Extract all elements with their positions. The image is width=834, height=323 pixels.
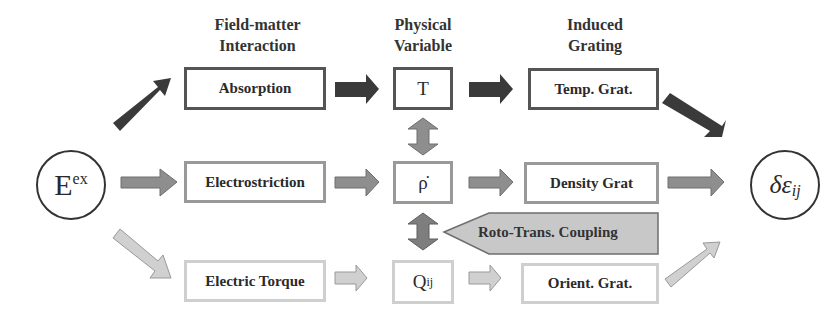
density-rate-label: ρ̇	[418, 172, 427, 194]
arrow-absorption-to-t	[335, 74, 379, 104]
arrow-density-to-target	[668, 169, 724, 196]
density-rate-box: ρ̇	[393, 161, 453, 204]
source-field-node: Eex	[36, 150, 106, 220]
target-symbol: δε	[769, 170, 791, 200]
source-symbol: E	[54, 168, 72, 202]
density-grating-label: Density Grat	[550, 175, 633, 192]
arrow-electrostriction-to-rho	[335, 169, 379, 196]
order-parameter-symbol: Q	[413, 271, 427, 293]
arrow-temp-to-target	[662, 93, 726, 137]
order-parameter-subscript: ij	[427, 275, 434, 290]
absorption-box: Absorption	[184, 67, 326, 110]
electrostriction-box: Electrostriction	[184, 161, 326, 203]
absorption-label: Absorption	[219, 80, 292, 97]
electric-torque-label: Electric Torque	[205, 273, 304, 290]
source-superscript: ex	[73, 170, 88, 188]
electric-torque-box: Electric Torque	[184, 260, 326, 302]
density-grating-box: Density Grat	[524, 162, 659, 204]
arrow-orient-to-target	[665, 242, 720, 287]
arrow-source-to-electrostriction	[121, 169, 177, 196]
target-subscript: ij	[792, 182, 801, 200]
electrostriction-label: Electrostriction	[205, 174, 305, 191]
coupling-label: Roto-Trans. Coupling	[478, 224, 618, 241]
arrow-source-to-absorption	[113, 78, 171, 131]
temp-grating-label: Temp. Grat.	[554, 81, 632, 98]
arrow-t-to-temp	[469, 74, 513, 104]
arrow-rho-to-density	[469, 169, 513, 196]
arrow-source-to-torque	[113, 229, 171, 278]
arrow-q-to-orient	[469, 265, 501, 291]
orient-grating-label: Orient. Grat.	[548, 275, 633, 292]
arrow-torque-to-q	[335, 265, 367, 291]
temperature-label: T	[417, 78, 429, 100]
double-arrow-t-rho	[408, 118, 438, 155]
order-parameter-box: Qij	[392, 260, 454, 304]
target-permittivity-node: δεij	[750, 150, 820, 220]
double-arrow-rho-q	[408, 213, 438, 250]
temperature-box: T	[393, 67, 453, 110]
orient-grating-box: Orient. Grat.	[521, 263, 659, 304]
temp-grating-box: Temp. Grat.	[528, 68, 659, 110]
